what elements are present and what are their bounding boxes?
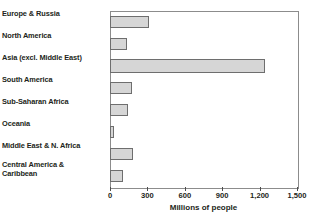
x-axis-tick-label: 0 (108, 191, 112, 200)
bar (110, 16, 149, 28)
category-label: Middle East & N. Africa (2, 142, 97, 151)
category-label: Sub-Saharan Africa (2, 98, 97, 107)
category-label: North America (2, 32, 97, 41)
x-axis-tick-label: 1,500 (287, 191, 306, 200)
bar-chart-figure: Europe & RussiaNorth AmericaAsia (excl. … (0, 0, 315, 221)
bar (110, 148, 133, 160)
category-label: South America (2, 76, 97, 85)
category-label: Europe & Russia (2, 10, 97, 19)
x-axis-tick-label: 900 (216, 191, 229, 200)
bar (110, 38, 127, 50)
bar (110, 104, 128, 116)
x-axis-tick-label: 600 (178, 191, 191, 200)
category-label: Central America & Caribbean (2, 161, 97, 178)
bar (110, 170, 123, 182)
plot-area (110, 11, 297, 187)
bar (110, 59, 265, 73)
bar (110, 82, 132, 94)
bar (110, 126, 114, 138)
category-label: Asia (excl. Middle East) (2, 54, 97, 63)
x-axis-tick-label: 1,200 (250, 191, 269, 200)
x-axis-tick-label: 300 (141, 191, 154, 200)
x-axis-title: Millions of people (110, 203, 297, 212)
category-axis: Europe & RussiaNorth AmericaAsia (excl. … (0, 10, 104, 188)
category-label: Oceania (2, 120, 97, 129)
